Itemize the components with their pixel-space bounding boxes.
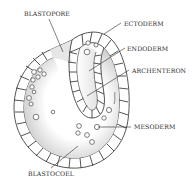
blastocoel-cavity bbox=[24, 48, 119, 158]
gastrula-diagram bbox=[0, 0, 196, 186]
label-ectoderm: ECTODERM bbox=[124, 21, 164, 27]
ectoderm-leader bbox=[104, 23, 121, 34]
label-mesoderm: MESODERM bbox=[134, 124, 175, 130]
label-blastopore: BLASTOPORE bbox=[24, 11, 70, 17]
label-endoderm: ENDODERM bbox=[127, 46, 168, 52]
label-archenteron: ARCHENTERON bbox=[132, 68, 186, 74]
label-blastocoel: BLASTOCOEL bbox=[28, 171, 74, 177]
